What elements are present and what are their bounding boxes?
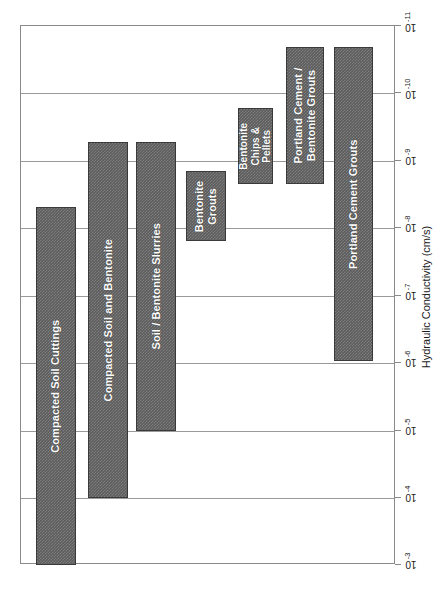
tick-exponent: -5 <box>403 419 412 426</box>
tick-mantissa: 10 <box>405 155 416 166</box>
hydraulic-conductivity-chart: Compacted Soil Cuttings Compacted Soil a… <box>0 0 448 594</box>
tick-exponent: -10 <box>403 79 412 90</box>
tick-mantissa: 10 <box>405 290 416 301</box>
bar-bentonite-chips-and-pellets[interactable]: Bentonite Chips & Pellets <box>238 108 273 184</box>
tick-label-10e-7: 10-7 <box>398 287 424 298</box>
bar-portland-cement-grouts[interactable]: Portland Cement Grouts <box>334 47 373 361</box>
bar-bentonite-grouts[interactable]: Bentonite Grouts <box>186 171 226 241</box>
gridline-10e-4 <box>21 498 394 499</box>
bar-portland-cement-bentonite-grouts[interactable]: Portland Cement / Bentonite Grouts <box>286 47 324 184</box>
bar-label: Soil / Bentonite Slurries <box>150 223 163 350</box>
tick-mantissa: 10 <box>405 425 416 436</box>
tick-mantissa: 10 <box>405 22 416 33</box>
tick-mantissa: 10 <box>405 222 416 233</box>
tick-mantissa: 10 <box>405 559 416 570</box>
tick-exponent: -8 <box>403 216 412 223</box>
tick-label-10e-8: 10-8 <box>398 219 424 230</box>
bar-label: Compacted Soil and Bentonite <box>102 239 115 401</box>
tick-mantissa: 10 <box>405 89 416 100</box>
tick-exponent: -9 <box>403 149 412 156</box>
bar-compacted-soil-and-bentonite[interactable]: Compacted Soil and Bentonite <box>88 142 128 498</box>
bar-label: Portland Cement / Bentonite Grouts <box>293 68 318 164</box>
tick-label-10e-6: 10-6 <box>398 354 424 365</box>
tick-mantissa: 10 <box>405 357 416 368</box>
bar-label: Bentonite Chips & Pellets <box>238 122 273 169</box>
tick-label-10e-4: 10-4 <box>398 489 424 500</box>
tick-exponent: -3 <box>403 553 412 560</box>
tick-label-10e-10: 10-10 <box>398 84 424 95</box>
tick-label-10e-9: 10-9 <box>398 152 424 163</box>
bar-compacted-soil-cuttings[interactable]: Compacted Soil Cuttings <box>36 207 76 565</box>
gridline-10e-6 <box>21 363 394 364</box>
tick-mantissa: 10 <box>405 492 416 503</box>
tick-exponent: -11 <box>403 12 412 22</box>
bar-label: Bentonite Grouts <box>194 180 219 232</box>
tick-label-10e-5: 10-5 <box>398 422 424 433</box>
tick-exponent: -4 <box>403 486 412 493</box>
bar-label: Compacted Soil Cuttings <box>50 319 63 452</box>
tick-exponent: -7 <box>403 284 412 291</box>
bar-soil-bentonite-slurries[interactable]: Soil / Bentonite Slurries <box>136 142 176 431</box>
tick-label-10e-11: 10-11 <box>398 17 424 28</box>
plot-area: Compacted Soil Cuttings Compacted Soil a… <box>20 25 395 564</box>
bar-label: Portland Cement Grouts <box>347 139 360 268</box>
tick-label-10e-3: 10-3 <box>398 556 424 567</box>
tick-exponent: -6 <box>403 351 412 358</box>
gridline-10e-5 <box>21 431 394 432</box>
